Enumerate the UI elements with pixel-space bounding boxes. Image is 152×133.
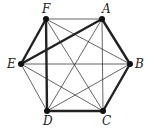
- vertex-label-F: F: [41, 2, 51, 16]
- highlighted-edge-C-B: [103, 64, 130, 111]
- edge-A-D: [47, 19, 102, 111]
- edge-E-C: [21, 64, 103, 111]
- edge-A-C: [102, 19, 103, 111]
- vertex-F: [43, 16, 49, 22]
- vertex-B: [127, 61, 133, 67]
- highlighted-edge-F-D: [46, 19, 47, 111]
- highlighted-edge-B-A: [102, 19, 130, 64]
- graph-diagram: ABCDEF: [0, 0, 152, 133]
- vertex-label-E: E: [6, 57, 16, 71]
- vertex-E: [18, 61, 24, 67]
- vertex-label-D: D: [42, 114, 53, 128]
- vertex-label-A: A: [101, 2, 111, 16]
- vertex-label-C: C: [102, 114, 111, 128]
- vertex-A: [99, 16, 105, 22]
- vertex-label-B: B: [134, 57, 144, 71]
